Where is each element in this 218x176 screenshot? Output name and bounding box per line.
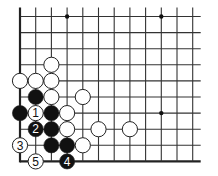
- white-stone: [60, 106, 75, 121]
- white-stone: [75, 89, 90, 104]
- black-stone: [28, 89, 43, 104]
- star-point-icon: [65, 14, 69, 18]
- black-stone: [44, 138, 59, 153]
- white-stone: [60, 122, 75, 137]
- board-canvas: 12354: [0, 0, 218, 176]
- move-number-label: 1: [32, 106, 39, 120]
- white-stone: [75, 138, 90, 153]
- move-number-label: 4: [64, 155, 71, 169]
- move-number-label: 5: [32, 155, 39, 169]
- black-stone: [12, 106, 27, 121]
- white-stone: [44, 73, 59, 88]
- white-stone-move-5: 5: [28, 154, 43, 169]
- white-stone: [122, 122, 137, 137]
- white-stone-move-3: 3: [12, 138, 27, 153]
- move-number-label: 2: [32, 122, 39, 136]
- go-board: 12354: [0, 0, 218, 176]
- black-stone-move-4: 4: [60, 154, 75, 169]
- star-point-icon: [159, 111, 163, 115]
- white-stone-move-1: 1: [28, 106, 43, 121]
- black-stone: [44, 122, 59, 137]
- white-stone: [44, 57, 59, 72]
- move-number-label: 3: [17, 139, 24, 153]
- star-point-icon: [159, 14, 163, 18]
- white-stone: [12, 73, 27, 88]
- black-stone: [44, 106, 59, 121]
- white-stone: [91, 122, 106, 137]
- white-stone: [28, 73, 43, 88]
- black-stone-move-2: 2: [28, 122, 43, 137]
- white-stone: [44, 89, 59, 104]
- black-stone: [60, 138, 75, 153]
